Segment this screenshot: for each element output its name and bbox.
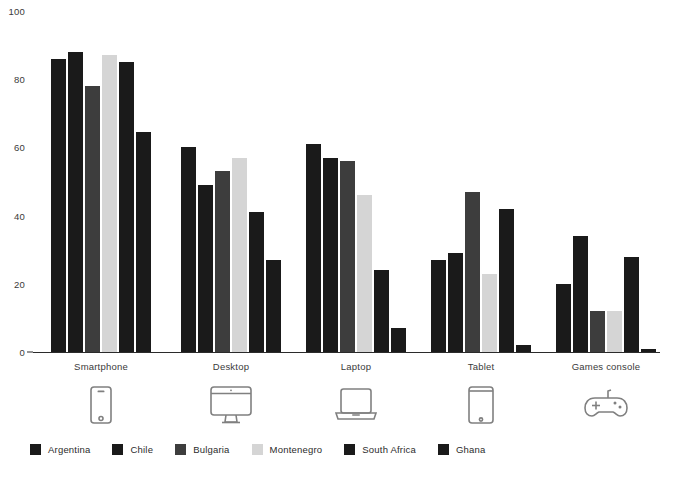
legend-item[interactable]: Ghana — [438, 444, 486, 455]
bar[interactable] — [102, 55, 117, 352]
legend-item[interactable]: South Africa — [344, 444, 416, 455]
desktop-icon — [208, 382, 254, 428]
laptop-icon — [333, 382, 379, 428]
x-axis-category-label: Games console — [572, 361, 641, 372]
x-axis-category-label: Desktop — [213, 361, 249, 372]
legend-swatch-icon — [252, 444, 263, 455]
bar[interactable] — [306, 144, 321, 352]
legend-item[interactable]: Bulgaria — [175, 444, 229, 455]
y-axis-tick-label: 40 — [14, 210, 25, 221]
x-axis-baseline — [33, 352, 660, 353]
bar[interactable] — [624, 257, 639, 352]
plot-area — [33, 11, 660, 352]
bar[interactable] — [249, 212, 264, 352]
bar[interactable] — [499, 209, 514, 352]
smartphone-icon — [78, 382, 124, 428]
y-axis-tick-label: 100 — [9, 6, 25, 17]
legend-label: Montenegro — [270, 444, 323, 455]
bar-group-bars — [556, 11, 656, 352]
bar[interactable] — [391, 328, 406, 352]
bar[interactable] — [516, 345, 531, 352]
bar[interactable] — [607, 311, 622, 352]
bar[interactable] — [482, 274, 497, 352]
bar-group — [431, 11, 531, 352]
bar-group — [556, 11, 656, 352]
legend-item[interactable]: Montenegro — [252, 444, 323, 455]
bar-group — [181, 11, 281, 352]
bar[interactable] — [198, 185, 213, 352]
bar-group-bars — [51, 11, 151, 352]
tablet-icon — [458, 382, 504, 428]
bar[interactable] — [556, 284, 571, 352]
bar[interactable] — [119, 62, 134, 352]
bar[interactable] — [232, 158, 247, 352]
legend-swatch-icon — [30, 444, 41, 455]
bar[interactable] — [136, 132, 151, 352]
bar-group-bars — [181, 11, 281, 352]
bar[interactable] — [51, 59, 66, 352]
games-console-icon — [583, 382, 629, 428]
legend-label: Ghana — [456, 444, 486, 455]
y-axis-tick-label: 20 — [14, 278, 25, 289]
bar[interactable] — [573, 236, 588, 352]
y-axis-tick-label: 60 — [14, 142, 25, 153]
bar[interactable] — [266, 260, 281, 352]
bar[interactable] — [448, 253, 463, 352]
bar[interactable] — [68, 52, 83, 352]
bar[interactable] — [357, 195, 372, 352]
grouped-bar-chart: 020406080100 ArgentinaChileBulgariaMonte… — [0, 0, 677, 484]
x-axis-category-label: Tablet — [468, 361, 495, 372]
bar[interactable] — [374, 270, 389, 352]
y-axis-tick-label: 80 — [14, 74, 25, 85]
bar-group — [51, 11, 151, 352]
bar-group — [306, 11, 406, 352]
bar[interactable] — [181, 147, 196, 352]
legend-swatch-icon — [112, 444, 123, 455]
legend-label: South Africa — [362, 444, 416, 455]
bar[interactable] — [465, 192, 480, 352]
bar[interactable] — [641, 349, 656, 352]
y-axis: 020406080100 — [0, 0, 33, 360]
bar[interactable] — [590, 311, 605, 352]
legend-item[interactable]: Chile — [112, 444, 153, 455]
legend-label: Chile — [130, 444, 153, 455]
legend-label: Argentina — [48, 444, 90, 455]
legend-swatch-icon — [175, 444, 186, 455]
legend-label: Bulgaria — [193, 444, 229, 455]
legend-swatch-icon — [438, 444, 449, 455]
bar[interactable] — [215, 171, 230, 352]
legend-swatch-icon — [344, 444, 355, 455]
chart-legend: ArgentinaChileBulgariaMontenegroSouth Af… — [30, 444, 485, 455]
x-axis-category-label: Laptop — [341, 361, 371, 372]
bar[interactable] — [323, 158, 338, 352]
bar[interactable] — [340, 161, 355, 352]
bar-group-bars — [431, 11, 531, 352]
bar[interactable] — [431, 260, 446, 352]
y-axis-tick-label: 0 — [20, 347, 25, 358]
legend-item[interactable]: Argentina — [30, 444, 90, 455]
bar[interactable] — [85, 86, 100, 352]
bar-group-bars — [306, 11, 406, 352]
x-axis-category-label: Smartphone — [74, 361, 128, 372]
